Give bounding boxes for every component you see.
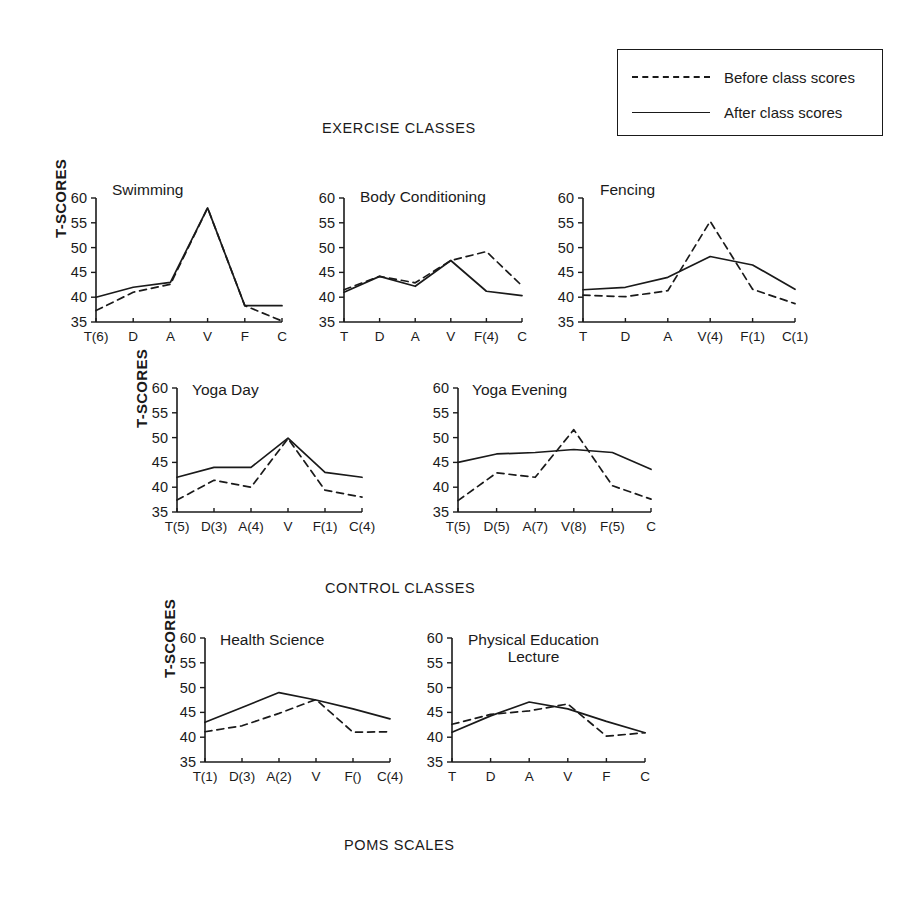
y-tick-label: 50 [152,430,168,446]
series-line-after [205,693,390,723]
panel-title-line: Lecture [468,648,599,665]
y-tick-label: 45 [152,454,168,470]
plot-area: 605550454035T(1)D(3)A(2)VF()C(4) [165,632,398,788]
y-tick-label: 35 [71,314,87,330]
x-tick-label: A [166,329,175,344]
y-tick-label: 60 [319,190,335,206]
y-tick-label: 35 [427,754,443,770]
x-tick-label: T(5) [165,519,190,534]
y-tick-label: 60 [180,630,196,646]
y-tick-label: 35 [180,754,196,770]
x-tick-label: T [448,769,456,784]
y-tick-label: 45 [319,264,335,280]
x-tick-label: D [621,329,631,344]
y-tick-label: 35 [319,314,335,330]
panel-title-line: Body Conditioning [360,188,486,205]
x-tick-label: C [646,519,656,534]
legend-label-after: After class scores [724,105,842,120]
x-tick-label: D [128,329,138,344]
y-tick-label: 55 [71,215,87,231]
y-tick-label: 35 [558,314,574,330]
y-tick-label: 55 [427,655,443,671]
series-line-after [344,261,522,296]
x-tick-label: C(4) [377,769,403,784]
y-tick-label: 40 [427,729,443,745]
series-line-after [458,450,651,470]
section-heading-exercise: EXERCISE CLASSES [322,120,476,136]
x-tick-label: D(3) [229,769,255,784]
x-tick-label: V [311,769,320,784]
y-tick-label: 60 [71,190,87,206]
panel-title: Yoga Day [192,381,259,398]
plot-area: 605550454035T(6)DAVFC [56,192,290,348]
x-tick-label: T [579,329,587,344]
y-tick-label: 50 [433,430,449,446]
panel-title: Physical EducationLecture [468,631,599,666]
x-tick-label: F(1) [740,329,765,344]
y-tick-label: 55 [558,215,574,231]
y-tick-label: 45 [427,704,443,720]
axis-label-poms-scales: POMS SCALES [344,837,455,853]
series-line-after [96,208,282,306]
y-tick-label: 35 [152,504,168,520]
x-tick-label: D [375,329,385,344]
y-tick-label: 55 [433,405,449,421]
y-tick-label: 60 [152,380,168,396]
x-tick-label: A(7) [522,519,548,534]
x-tick-label: T(6) [84,329,109,344]
y-tick-label: 50 [319,240,335,256]
chart-panel-yoga-evening: 605550454035T(5)D(5)A(7)V(8)F(5)C [418,382,659,538]
y-tick-label: 40 [433,479,449,495]
x-tick-label: D(3) [201,519,227,534]
x-tick-label: V [283,519,292,534]
plot-area: 605550454035T(5)D(3)A(4)VF(1)C(4) [137,382,370,538]
chart-panel-health-science: 605550454035T(1)D(3)A(2)VF()C(4) [165,632,398,788]
y-tick-label: 45 [433,454,449,470]
x-tick-label: A(2) [266,769,292,784]
x-tick-label: C [517,329,527,344]
panel-title: Body Conditioning [360,188,486,205]
panel-title: Yoga Evening [472,381,567,398]
chart-panel-yoga-day: 605550454035T(5)D(3)A(4)VF(1)C(4) [137,382,370,538]
panel-title-line: Physical Education [468,631,599,648]
plot-area: 605550454035TDAV(4)F(1)C(1) [543,192,803,348]
y-tick-label: 50 [427,680,443,696]
x-tick-label: V(4) [697,329,723,344]
y-tick-label: 55 [180,655,196,671]
x-tick-label: T(1) [193,769,218,784]
series-line-before [458,430,651,501]
panel-title-line: Yoga Evening [472,381,567,398]
solid-line-icon [632,112,710,113]
poms-scales-figure: Before class scores After class scores E… [0,0,901,903]
x-tick-label: F [241,329,249,344]
legend-item-after: After class scores [632,102,842,122]
x-tick-label: C(4) [349,519,375,534]
panel-title-line: Fencing [600,181,655,198]
y-tick-label: 60 [433,380,449,396]
chart-panel-swimming: 605550454035T(6)DAVFC [56,192,290,348]
x-tick-label: F(5) [600,519,625,534]
y-tick-label: 45 [180,704,196,720]
panel-title-line: Yoga Day [192,381,259,398]
y-tick-label: 45 [558,264,574,280]
series-line-before [344,252,522,290]
y-tick-label: 45 [71,264,87,280]
y-axis-title: T-SCORES [161,599,178,678]
y-tick-label: 50 [558,240,574,256]
x-tick-label: T [340,329,348,344]
chart-panel-body-conditioning: 605550454035TDAVF(4)C [304,192,530,348]
y-tick-label: 40 [319,289,335,305]
x-tick-label: D [486,769,496,784]
y-tick-label: 35 [433,504,449,520]
chart-panel-fencing: 605550454035TDAV(4)F(1)C(1) [543,192,803,348]
legend-label-before: Before class scores [724,70,855,85]
series-line-before [583,221,795,303]
x-tick-label: C [640,769,650,784]
x-tick-label: C(1) [782,329,808,344]
y-tick-label: 50 [71,240,87,256]
series-line-before [96,208,282,321]
y-tick-label: 50 [180,680,196,696]
y-tick-label: 40 [180,729,196,745]
x-tick-label: V [203,329,212,344]
y-axis-title: T-SCORES [52,159,69,238]
